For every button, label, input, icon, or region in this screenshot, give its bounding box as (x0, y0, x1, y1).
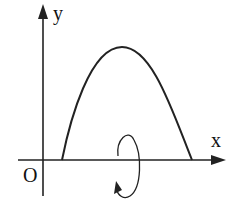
origin-label: O (23, 165, 37, 185)
arch-curve (62, 47, 192, 160)
x-axis-arrow-icon (211, 155, 226, 165)
x-axis-label: x (211, 130, 221, 150)
x-axis (18, 155, 226, 165)
y-axis (38, 4, 48, 196)
y-axis-label: y (53, 3, 63, 23)
diagram-canvas: y x O (0, 0, 227, 203)
rotation-arrow-icon (114, 135, 140, 197)
y-axis-arrow-icon (38, 4, 48, 19)
